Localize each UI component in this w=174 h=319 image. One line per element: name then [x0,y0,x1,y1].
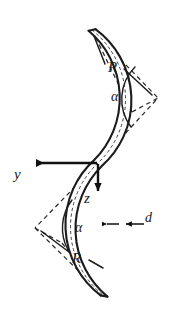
radius-bottom-label: R [71,250,81,266]
radius-top-label: R [107,59,117,75]
strip-cap-bottom [101,295,108,296]
thickness-label: d [145,210,153,225]
y-axis-label: y [12,166,21,182]
construction-line-top-closing [132,98,158,112]
angle-top-label: α [111,89,119,104]
curved-strip-diagram: R α R α y z d [0,0,174,319]
radius-line-bottom-segment-b [89,260,103,268]
thickness-dimension: d [107,210,153,225]
angle-bottom-label: α [75,220,83,235]
z-axis-label: z [83,190,90,206]
figure-container: R α R α y z d [0,0,174,319]
